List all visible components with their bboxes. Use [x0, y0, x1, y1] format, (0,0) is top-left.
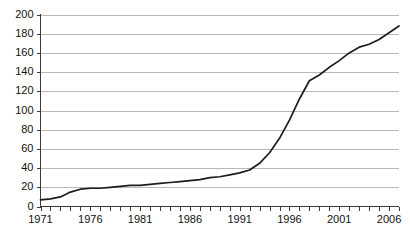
y-tick-label: 200: [15, 8, 33, 20]
x-tick-label: 1976: [78, 213, 102, 225]
gridlines: [41, 16, 400, 188]
y-tick-label: 100: [15, 104, 33, 116]
y-tick-label: 140: [15, 65, 33, 77]
x-tick-label: 1971: [28, 213, 52, 225]
y-tick-label: 0: [27, 200, 33, 212]
x-tick-label: 1996: [277, 213, 301, 225]
y-tick-label: 160: [15, 46, 33, 58]
x-axis-tick-marks: [42, 207, 400, 211]
x-tick-label: 1981: [128, 213, 152, 225]
chart-canvas: 020406080100120140160180200 197119761981…: [0, 0, 410, 236]
x-tick-label: 2001: [327, 213, 351, 225]
y-tick-label: 180: [15, 27, 33, 39]
y-tick-label: 40: [21, 161, 33, 173]
x-tick-label: 1986: [178, 213, 202, 225]
x-axis-tick-labels: 19711976198119861991199620012006: [28, 213, 401, 225]
y-tick-label: 120: [15, 84, 33, 96]
y-tick-label: 60: [21, 142, 33, 154]
y-tick-label: 80: [21, 123, 33, 135]
x-tick-label: 1991: [227, 213, 251, 225]
y-tick-label: 20: [21, 180, 33, 192]
y-axis-tick-labels: 020406080100120140160180200: [15, 8, 33, 212]
data-series-line: [41, 26, 400, 200]
x-tick-label: 2006: [377, 213, 401, 225]
line-chart: 020406080100120140160180200 197119761981…: [0, 0, 410, 236]
